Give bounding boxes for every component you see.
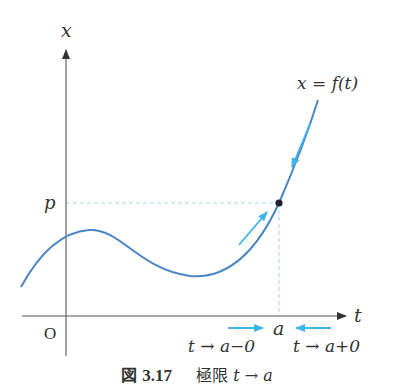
figure-caption: 図 3.17 極限 t → a xyxy=(0,362,394,386)
x-value-label-a: a xyxy=(273,317,284,339)
curve-label: x = f(t) xyxy=(297,73,358,93)
caption-title-math: t → a xyxy=(233,366,273,385)
caption-title-kanji: 極限 xyxy=(196,366,228,385)
origin-label: O xyxy=(44,324,56,343)
caption-figure-number: 3.17 xyxy=(142,366,172,385)
horizontal-axis-label: t xyxy=(354,304,362,326)
limit-point xyxy=(275,199,282,206)
approach-arrow-from-above xyxy=(292,124,310,167)
limit-figure: x t O p a x = f(t) t → a−0 t → a+0 図 3.1… xyxy=(0,0,394,392)
approach-arrow-from-below xyxy=(239,212,267,245)
approach-right-label: t → a+0 xyxy=(293,336,360,356)
vertical-axis-label: x xyxy=(61,19,72,41)
y-value-label-p: p xyxy=(44,192,56,213)
caption-figure-marker: 図 xyxy=(121,366,137,385)
approach-left-label: t → a−0 xyxy=(188,336,255,356)
